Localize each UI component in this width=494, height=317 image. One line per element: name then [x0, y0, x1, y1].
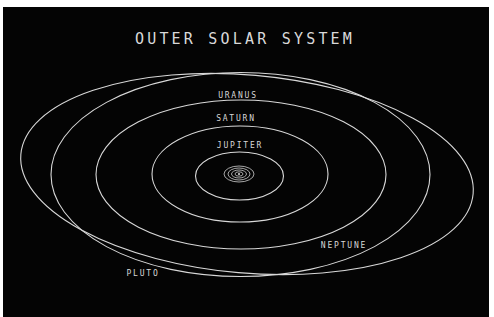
diagram-stage: OUTER SOLAR SYSTEM URANUS SATURN JUPITER… [0, 0, 494, 317]
orbit-diagram: OUTER SOLAR SYSTEM URANUS SATURN JUPITER… [0, 0, 494, 317]
label-uranus: URANUS [218, 91, 258, 100]
label-neptune: NEPTUNE [321, 241, 367, 250]
sun-dot [238, 173, 240, 175]
label-pluto: PLUTO [126, 269, 159, 278]
label-jupiter: JUPITER [217, 141, 263, 150]
diagram-title: OUTER SOLAR SYSTEM [135, 30, 355, 48]
inner-orbits [224, 166, 254, 182]
label-saturn: SATURN [216, 114, 256, 123]
orbit-neptune [51, 73, 430, 277]
